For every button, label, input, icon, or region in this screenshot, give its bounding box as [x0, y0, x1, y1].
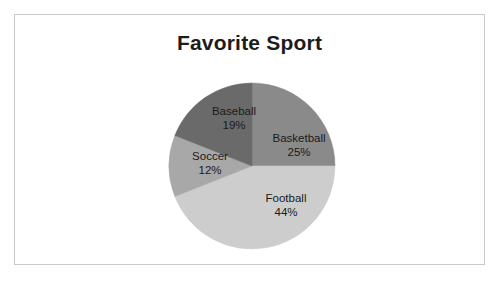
chart-frame: Favorite Sport Basketball 25% Football 4…: [14, 14, 485, 265]
pie-label-football-name: Football: [236, 191, 336, 205]
pie-label-baseball-percent: 19%: [184, 118, 284, 132]
pie-label-football: Football 44%: [236, 191, 336, 220]
pie-label-baseball-name: Baseball: [184, 104, 284, 118]
pie-label-football-percent: 44%: [236, 205, 336, 219]
pie-label-basketball-percent: 25%: [249, 145, 349, 159]
pie-label-soccer-name: Soccer: [160, 149, 260, 163]
pie-chart: Basketball 25% Football 44% Soccer 12% B…: [15, 15, 486, 266]
pie-label-soccer: Soccer 12%: [160, 149, 260, 178]
pie-label-basketball: Basketball 25%: [249, 131, 349, 160]
pie-label-basketball-name: Basketball: [249, 131, 349, 145]
pie-label-baseball: Baseball 19%: [184, 104, 284, 133]
pie-label-soccer-percent: 12%: [160, 163, 260, 177]
